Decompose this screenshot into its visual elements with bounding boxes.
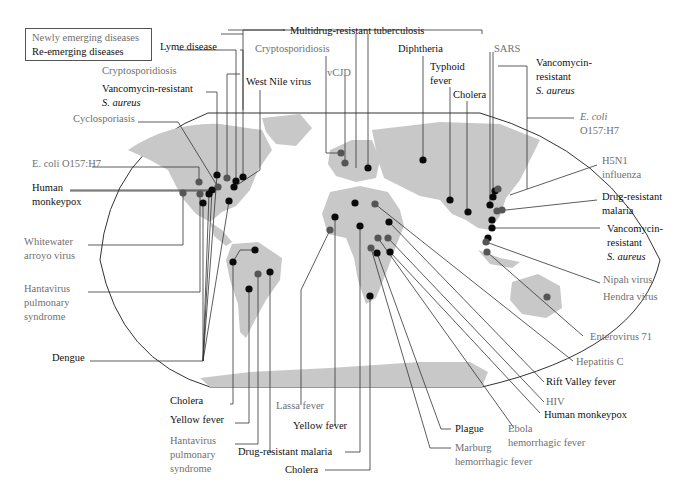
label-cyclo: Cyclosporiasis [73,113,135,124]
re-emerging-dot [464,208,471,215]
newly-emerging-dot [498,206,505,213]
newly-emerging-dot [543,293,550,300]
label-hanta-na: Hantaviruspulmonarysyndrome [24,283,70,322]
label-nipah: Nipah virus [603,274,652,285]
label-crypto-eu: Cryptosporidiosis [255,43,330,54]
re-emerging-dot [486,201,493,208]
label-whitewater: Whitewaterarroyo virus [24,236,75,261]
newly-emerging-dot [374,234,381,241]
re-emerging-dot [419,156,426,163]
label-h5n1: H5N1influenza [602,155,641,180]
label-ecoli-na: E. coli O157:H7 [32,158,101,169]
label-lassa: Lassa fever [276,400,325,411]
newly-emerging-dot [179,189,186,196]
re-emerging-dot [245,285,252,292]
label-dr-malaria-af: Drug-resistant malaria [238,446,333,457]
re-emerging-dot [386,248,393,255]
label-vcjd: vCJD [327,67,351,78]
label-cholera-af: Cholera [285,464,319,475]
label-vre-asia: Vancomycin-resistantS. aureus [536,57,592,96]
leader-line [243,30,285,110]
re-emerging-dot [266,268,273,275]
newly-emerging-dot [482,238,489,245]
newly-emerging-dot [341,159,348,166]
label-dengue: Dengue [52,352,85,363]
re-emerging-dot [239,173,246,180]
label-mdr-tb: Multidrug-resistant tuberculosis [290,25,424,36]
label-lyme: Lyme disease [160,41,217,52]
re-emerging-dot [225,197,232,204]
world-map: Lyme diseaseCryptosporidiosisVancomycin-… [0,0,685,488]
label-hepc: Hepatitis C [576,356,624,367]
re-emerging-dot [229,258,236,265]
label-cholera-sa: Cholera [170,395,204,406]
newly-emerging-dot [195,178,202,185]
label-hiv: HIV [546,396,565,407]
re-emerging-dot [213,171,220,178]
newly-emerging-dot [337,149,344,156]
label-crypto-na: Cryptosporidiosis [102,65,177,76]
label-entero71: Enterovirus 71 [590,331,652,342]
label-ecoli-asia: E. coliO157:H7 [579,111,619,136]
newly-emerging-dot [384,234,391,241]
label-ebola: Ebolahemorrhagic fever [508,423,586,448]
label-plague: Plague [455,423,484,434]
re-emerging-dot [366,292,373,299]
re-emerging-dot [446,196,453,203]
label-monkeypox-na: Humanmonkeypox [32,182,82,207]
label-hanta-sa: Hantaviruspulmonarysyndrome [170,435,216,474]
label-riftvalley: Rift Valley fever [546,376,616,387]
re-emerging-dot [364,164,371,171]
label-monkeypox-af: Human monkeypox [544,409,628,420]
label-diphtheria: Diphtheria [398,43,443,54]
emerging-diseases-map: Newly emerging diseases Re-emerging dise… [0,0,685,488]
newly-emerging-dot [196,190,203,197]
label-cholera-asia: Cholera [453,89,487,100]
re-emerging-dot [331,213,338,220]
re-emerging-dot [488,216,495,223]
re-emerging-dot [385,218,392,225]
re-emerging-dot [373,249,380,256]
newly-emerging-dot [254,270,261,277]
label-vre-na: Vancomycin-resistantS. aureus [102,83,193,108]
re-emerging-dot [356,222,363,229]
newly-emerging-dot [494,185,501,192]
newly-emerging-dot [371,200,378,207]
newly-emerging-dot [223,174,230,181]
label-hendra: Hendra virus [603,291,658,302]
newly-emerging-dot [367,244,374,251]
newly-emerging-dot [326,226,333,233]
label-yellow-af: Yellow fever [293,420,348,431]
re-emerging-dot [230,183,237,190]
label-typhoid: Typhoidfever [430,61,466,86]
re-emerging-dot [199,199,206,206]
re-emerging-dot [205,190,212,197]
label-yellow-sa: Yellow fever [170,414,225,425]
label-westnile: West Nile virus [246,76,311,87]
re-emerging-dot [351,199,358,206]
re-emerging-dot [251,246,258,253]
label-sars: SARS [494,43,520,54]
re-emerging-dot [488,224,495,231]
newly-emerging-dot [483,248,490,255]
